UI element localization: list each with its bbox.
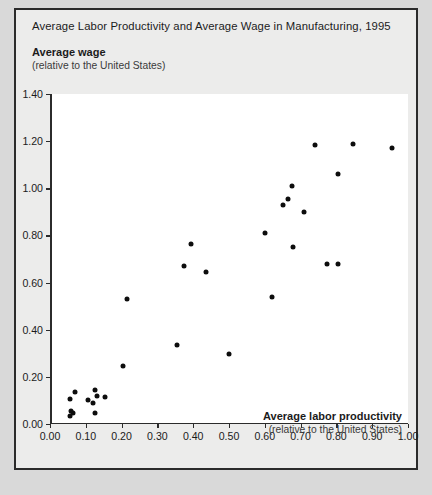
data-point [302, 209, 307, 214]
x-tick-label: 0.50 [219, 430, 240, 442]
y-tick [46, 330, 50, 331]
data-point [90, 400, 95, 405]
data-point [325, 261, 330, 266]
x-tick-label: 0.10 [75, 430, 96, 442]
data-point [286, 196, 291, 201]
data-point [312, 142, 317, 147]
x-tick-label: 0.30 [147, 430, 168, 442]
data-point [85, 398, 90, 403]
y-tick-label: 0.60 [22, 277, 43, 289]
x-tick [265, 424, 266, 428]
data-point [73, 390, 78, 395]
x-tick [122, 424, 123, 428]
data-point [280, 202, 285, 207]
y-tick-label: 1.20 [22, 135, 43, 147]
data-point [269, 294, 274, 299]
data-point [350, 141, 355, 146]
y-tick [46, 188, 50, 189]
figure-panel: Average Labor Productivity and Average W… [14, 8, 418, 470]
y-tick [46, 283, 50, 284]
data-point [92, 411, 97, 416]
x-tick-label: 0.00 [40, 430, 61, 442]
y-tick [46, 94, 50, 95]
data-point [291, 245, 296, 250]
data-point [389, 146, 394, 151]
data-point [121, 364, 126, 369]
data-point [227, 352, 232, 357]
data-point [189, 241, 194, 246]
x-tick [50, 424, 51, 428]
x-tick [408, 424, 409, 428]
x-tick [157, 424, 158, 428]
x-tick-label: 0.40 [183, 430, 204, 442]
chart-title: Average Labor Productivity and Average W… [32, 20, 391, 32]
x-axis-label: Average labor productivity [263, 410, 402, 422]
data-point [262, 231, 267, 236]
data-point [69, 409, 74, 414]
figure-caption [14, 478, 418, 492]
x-tick [193, 424, 194, 428]
y-tick-label: 1.40 [22, 88, 43, 100]
y-tick [46, 141, 50, 142]
data-point [203, 269, 208, 274]
plot-wrapper: 0.000.200.400.600.801.001.201.40 0.000.1… [50, 94, 408, 424]
y-tick [46, 235, 50, 236]
y-tick-label: 0.40 [22, 324, 43, 336]
y-axis-label: Average wage [32, 46, 106, 58]
data-point [67, 397, 72, 402]
y-tick [46, 377, 50, 378]
y-tick-label: 0.20 [22, 371, 43, 383]
y-axis-line [50, 94, 52, 424]
data-point [336, 261, 341, 266]
x-tick [229, 424, 230, 428]
data-point [92, 387, 97, 392]
data-point [175, 343, 180, 348]
y-tick-label: 0.00 [22, 418, 43, 430]
data-point [124, 297, 129, 302]
y-tick-label: 0.80 [22, 229, 43, 241]
data-point [103, 394, 108, 399]
x-tick-label: 0.20 [111, 430, 132, 442]
x-axis-sublabel: (relative to the United States) [269, 424, 402, 435]
y-axis-sublabel: (relative to the United States) [32, 60, 165, 71]
x-tick [86, 424, 87, 428]
data-point [182, 264, 187, 269]
data-point [94, 393, 99, 398]
data-point [289, 183, 294, 188]
y-tick-label: 1.00 [22, 182, 43, 194]
data-point [336, 172, 341, 177]
